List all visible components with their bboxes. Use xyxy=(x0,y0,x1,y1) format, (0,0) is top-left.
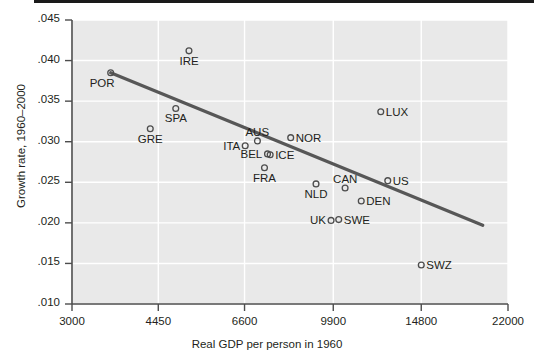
point-label-den: DEN xyxy=(366,195,390,207)
x-tick-label: 6600 xyxy=(205,315,285,327)
point-label-nor: NOR xyxy=(296,132,322,144)
point-label-aus: AUS xyxy=(245,126,269,138)
point-label-us: US xyxy=(393,175,409,187)
y-tick-label: .010 xyxy=(20,296,60,308)
y-axis-title: Growth rate, 1960–2000 xyxy=(15,51,27,241)
point-label-gre: GRE xyxy=(138,133,163,145)
x-tick-label: 9900 xyxy=(293,315,373,327)
data-point-marker-lux xyxy=(378,109,384,115)
point-label-ita: ITA xyxy=(223,140,240,152)
regression-trendline xyxy=(111,73,483,226)
point-label-por: POR xyxy=(90,77,115,89)
point-label-bel: BEL xyxy=(240,148,262,160)
data-point-marker-nor xyxy=(288,135,294,141)
data-point-marker-spa xyxy=(173,106,179,112)
trendline-group xyxy=(111,73,483,226)
x-tick-label: 22000 xyxy=(468,315,534,327)
data-point-marker-gre xyxy=(147,126,153,132)
point-label-fra: FRA xyxy=(253,172,276,184)
x-axis-title: Real GDP per person in 1960 xyxy=(0,338,534,350)
point-label-swe: SWE xyxy=(344,214,370,226)
data-point-marker-can xyxy=(342,185,348,191)
y-tick-label: .015 xyxy=(20,255,60,267)
chart-figure: .010.015.020.025.030.035.040.045 3000445… xyxy=(0,0,534,358)
data-point-marker-fra xyxy=(262,165,268,171)
point-label-uk: UK xyxy=(310,214,326,226)
x-tick-label: 3000 xyxy=(32,315,112,327)
data-point-marker-aus xyxy=(255,138,261,144)
point-label-spa: SPA xyxy=(165,112,187,124)
point-label-can: CAN xyxy=(333,173,357,185)
data-point-marker-den xyxy=(358,198,364,204)
data-point-marker-ire xyxy=(186,48,192,54)
point-label-swz: SWZ xyxy=(426,259,452,271)
point-label-lux: LUX xyxy=(386,106,408,118)
x-tick-label: 14800 xyxy=(381,315,461,327)
data-points-group xyxy=(108,48,424,268)
point-label-ire: IRE xyxy=(179,55,198,67)
y-tick-label: .045 xyxy=(20,12,60,24)
x-tick-label: 4450 xyxy=(118,315,198,327)
data-point-marker-swe xyxy=(336,217,342,223)
point-label-ice: ICE xyxy=(275,149,294,161)
point-label-nld: NLD xyxy=(305,188,328,200)
